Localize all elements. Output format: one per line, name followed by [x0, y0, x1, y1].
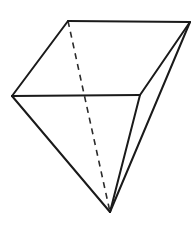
figure-background — [0, 0, 195, 227]
polyhedron-drawing — [0, 0, 195, 227]
figure-container — [0, 0, 195, 227]
edge-horizontal-middle — [12, 95, 140, 96]
edge-top — [68, 21, 190, 22]
